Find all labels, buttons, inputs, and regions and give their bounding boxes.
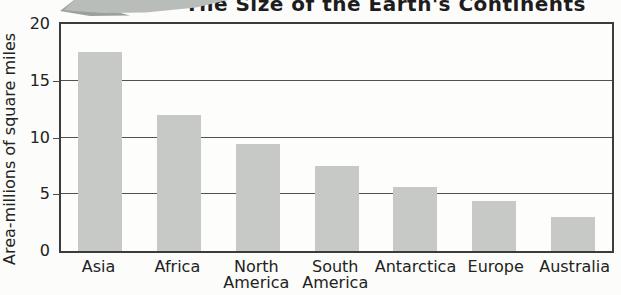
swoosh-body-shape [64,0,228,13]
y-tick-label-0: 0 [0,242,50,260]
bar-south-america [315,166,359,251]
y-tick-label-20: 20 [0,15,50,33]
x-tick-label-australia: Australia [535,259,614,291]
x-tick-label-south-america: South America [296,259,375,291]
bar-europe [472,201,516,251]
plot-area [59,22,614,253]
x-tick-label-africa: Africa [138,259,217,291]
x-axis-labels: AsiaAfricaNorth AmericaSouth AmericaAnta… [59,259,614,291]
y-tick-label-10: 10 [0,129,50,147]
y-axis-title: Area-millions of square miles [1,33,19,265]
chart-canvas: The Size of the Earth's Continents Area-… [0,0,621,295]
x-tick-label-north-america: North America [217,259,296,291]
x-tick-label-antarctica: Antarctica [375,259,457,291]
x-tick-label-europe: Europe [456,259,535,291]
gridline-15 [61,80,612,81]
bar-africa [157,115,201,251]
y-axis-tick-5 [53,194,60,195]
bar-asia [78,52,122,251]
bar-antarctica [393,187,437,251]
bar-australia [551,217,595,251]
y-tick-label-5: 5 [0,185,50,203]
bar-north-america [236,144,280,251]
y-axis-tick-15 [53,81,60,82]
banner-swoosh-graphic [60,0,230,17]
y-axis-tick-10 [53,138,60,139]
gridline-10 [61,137,612,138]
y-tick-label-15: 15 [0,72,50,90]
x-tick-label-asia: Asia [59,259,138,291]
